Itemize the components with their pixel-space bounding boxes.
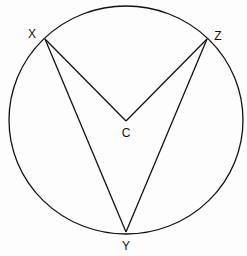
segment-yz <box>126 39 207 232</box>
point-label-x: X <box>28 28 36 40</box>
circle <box>9 6 243 234</box>
point-label-c: C <box>122 127 131 139</box>
point-label-z: Z <box>214 30 221 42</box>
segment-cz <box>126 39 207 121</box>
point-label-y: Y <box>122 240 130 252</box>
diagram-canvas: X Z C Y <box>0 0 247 256</box>
segment-xy <box>45 39 126 232</box>
segment-xc <box>45 39 126 121</box>
